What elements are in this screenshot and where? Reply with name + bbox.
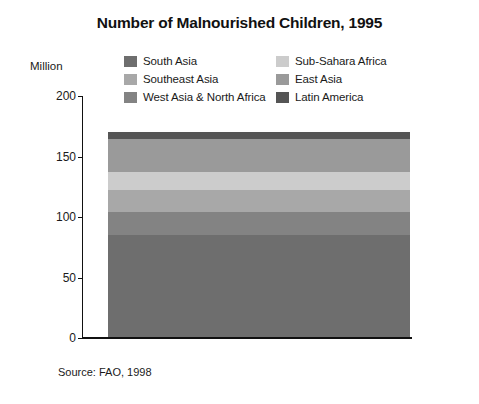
y-tick-label: 0 [16, 331, 76, 345]
legend-item-south-asia: South Asia [124, 55, 276, 67]
y-tick-mark [78, 157, 82, 158]
bar-segment [108, 212, 410, 235]
y-tick-mark [78, 217, 82, 218]
legend-item-east-asia: East Asia [276, 73, 424, 85]
legend-swatch-icon [276, 74, 289, 85]
y-tick-mark [78, 96, 82, 97]
legend-swatch-icon [124, 74, 137, 85]
y-axis-unit-label: Million [30, 60, 63, 72]
legend-label: Sub-Sahara Africa [295, 55, 387, 67]
y-tick-mark [78, 278, 82, 279]
y-tick-label: 150 [16, 150, 76, 164]
legend-label: South Asia [143, 55, 197, 67]
legend-label: Southeast Asia [143, 73, 218, 85]
legend-item-southeast-asia: Southeast Asia [124, 73, 276, 85]
y-tick-label: 200 [16, 89, 76, 103]
legend-swatch-icon [276, 56, 289, 67]
bar-segment [108, 132, 410, 139]
y-tick-label: 100 [16, 210, 76, 224]
y-tick-mark [78, 338, 82, 339]
legend-swatch-icon [124, 56, 137, 67]
chart-title: Number of Malnourished Children, 1995 [0, 14, 479, 32]
y-tick-label: 50 [16, 271, 76, 285]
stacked-bar [108, 132, 410, 338]
y-axis-line [82, 96, 83, 338]
bar-segment [108, 235, 410, 338]
legend-item-sub-sahara-africa: Sub-Sahara Africa [276, 55, 424, 67]
source-note: Source: FAO, 1998 [58, 366, 152, 378]
x-axis-line [82, 337, 412, 338]
bar-segment [108, 172, 410, 190]
plot-area: 200150100500 [82, 90, 412, 342]
bar-segment [108, 139, 410, 172]
bar-segment [108, 190, 410, 212]
chart-container: Number of Malnourished Children, 1995 So… [0, 0, 479, 404]
legend-label: East Asia [295, 73, 342, 85]
